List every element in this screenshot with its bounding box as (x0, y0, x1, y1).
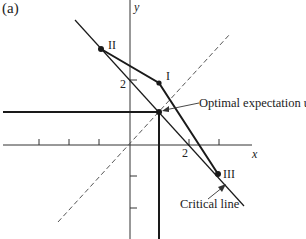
point-I-marker (156, 80, 161, 85)
payoff-diagram: (a) y x 2 2 I II III Optimal expectation… (0, 0, 306, 239)
optimal-point-marker (156, 109, 162, 115)
point-II-marker (98, 46, 104, 52)
x-axis-label: x (252, 148, 257, 160)
y-tick-label: 2 (120, 78, 126, 90)
optimal-expectation-label: Optimal expectation u0 (199, 97, 306, 113)
panel-label: (a) (2, 1, 19, 16)
y-axis-label: y (134, 1, 139, 13)
optimal-arrow-line (165, 103, 199, 110)
point-I-label: I (166, 70, 170, 82)
dashed-diagonal-line (58, 34, 230, 222)
diagram-canvas (0, 0, 306, 239)
point-III-marker (215, 171, 221, 177)
critical-line-label: Critical line (180, 198, 239, 211)
optimal-expectation-text: Optimal expectation u (199, 96, 306, 110)
y-ticks (130, 80, 137, 208)
critical-arrow-head (218, 184, 226, 192)
point-II-label: II (108, 39, 116, 51)
x-tick-label: 2 (182, 147, 188, 159)
point-III-label: III (223, 168, 235, 180)
